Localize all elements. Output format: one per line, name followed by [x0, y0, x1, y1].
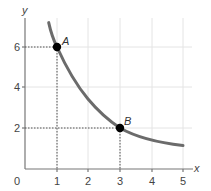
point-b: [116, 124, 124, 132]
grid: [25, 18, 192, 169]
guide-lines: [25, 47, 120, 169]
y-tick-6: 6: [14, 41, 20, 53]
x-tick-1: 1: [54, 175, 60, 187]
x-tick-5: 5: [180, 175, 186, 187]
x-tick-4: 4: [149, 175, 155, 187]
chart: A B y x 6 4 2 0 1 2 3 4 5: [0, 0, 211, 191]
y-axis-label: y: [21, 4, 29, 16]
y-tick-2: 2: [14, 122, 20, 134]
point-a-label: A: [61, 35, 69, 47]
x-tick-3: 3: [117, 175, 123, 187]
point-b-label: B: [124, 115, 131, 127]
axes: [22, 18, 193, 172]
x-tick-2: 2: [85, 175, 91, 187]
origin-label: 0: [14, 175, 20, 187]
y-tick-4: 4: [14, 81, 20, 93]
point-a: [53, 43, 61, 51]
x-axis-label: x: [193, 162, 200, 174]
